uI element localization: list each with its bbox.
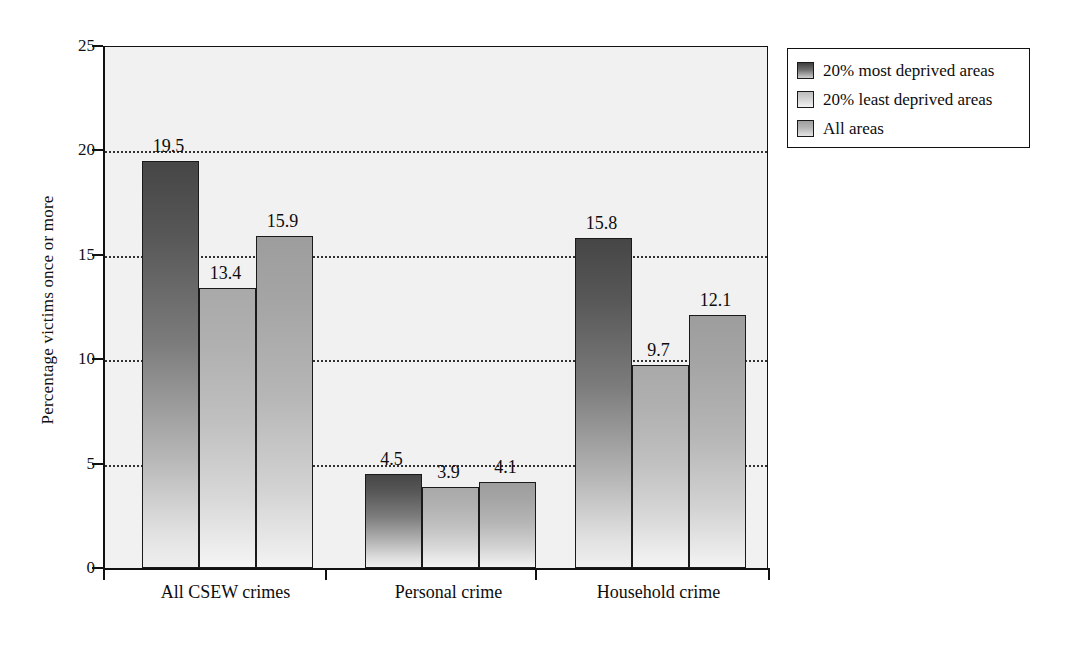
bar xyxy=(632,365,689,568)
bar xyxy=(689,315,746,568)
bar xyxy=(479,482,536,568)
y-axis-tick-mark xyxy=(92,358,103,360)
x-axis-group-tick xyxy=(103,568,105,580)
legend-swatch-least-deprived-icon xyxy=(797,91,814,108)
bar xyxy=(422,487,479,568)
bar-chart: Percentage victims once or more 05101520… xyxy=(0,0,1091,646)
x-axis-group-tick xyxy=(768,568,770,580)
gridline xyxy=(105,151,767,153)
x-axis-category-label: Personal crime xyxy=(395,582,502,603)
gridline xyxy=(105,256,767,258)
y-axis-tick-mark xyxy=(92,149,103,151)
legend-item[interactable]: 20% least deprived areas xyxy=(797,85,1029,114)
bar xyxy=(256,236,313,568)
legend-label: 20% most deprived areas xyxy=(823,61,994,81)
plot-area xyxy=(103,46,768,568)
bar xyxy=(365,474,422,568)
y-axis-title: Percentage victims once or more xyxy=(38,50,58,570)
legend-item[interactable]: 20% most deprived areas xyxy=(797,56,1029,85)
x-axis-category-label: Household crime xyxy=(597,582,720,603)
bar-value-label: 3.9 xyxy=(437,462,460,483)
bar-value-label: 15.9 xyxy=(267,211,299,232)
legend-label: 20% least deprived areas xyxy=(823,90,992,110)
bar-value-label: 12.1 xyxy=(700,290,732,311)
legend-label: All areas xyxy=(823,119,884,139)
x-axis-category-label: All CSEW crimes xyxy=(161,582,291,603)
legend-swatch-most-deprived-icon xyxy=(797,62,814,79)
bar-value-label: 4.5 xyxy=(380,449,403,470)
bar-value-label: 13.4 xyxy=(210,263,242,284)
bar-value-label: 9.7 xyxy=(647,340,670,361)
x-axis-group-tick xyxy=(325,568,327,580)
bar-value-label: 4.1 xyxy=(494,457,517,478)
bar xyxy=(575,238,632,568)
bar xyxy=(199,288,256,568)
legend-item[interactable]: All areas xyxy=(797,114,1029,143)
x-axis-group-tick xyxy=(535,568,537,580)
y-axis-tick-label: 10 xyxy=(0,349,95,369)
y-axis-tick-label: 5 xyxy=(0,454,95,474)
x-axis-line xyxy=(103,568,770,570)
y-axis-tick-label: 0 xyxy=(0,558,95,578)
bar-value-label: 19.5 xyxy=(153,136,185,157)
legend: 20% most deprived areas 20% least depriv… xyxy=(787,48,1030,148)
y-axis-tick-label: 25 xyxy=(0,36,95,56)
bar-value-label: 15.8 xyxy=(586,213,618,234)
y-axis-tick-label: 20 xyxy=(0,140,95,160)
y-axis-tick-mark xyxy=(92,254,103,256)
bar xyxy=(142,161,199,568)
y-axis-tick-mark xyxy=(92,45,103,47)
y-axis-tick-label: 15 xyxy=(0,245,95,265)
y-axis-tick-mark xyxy=(92,567,103,569)
legend-swatch-all-areas-icon xyxy=(797,120,814,137)
y-axis-tick-mark xyxy=(92,463,103,465)
